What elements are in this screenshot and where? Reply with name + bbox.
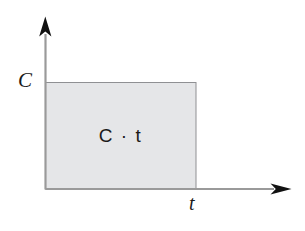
y-axis-value-label: C — [18, 70, 32, 91]
figure-canvas: C t C · t — [0, 0, 305, 231]
diagram-svg — [0, 0, 305, 231]
area-expression-label: C · t — [0, 126, 241, 145]
y-axis-arrow-icon — [39, 17, 51, 37]
x-axis-value-label: t — [189, 193, 195, 213]
